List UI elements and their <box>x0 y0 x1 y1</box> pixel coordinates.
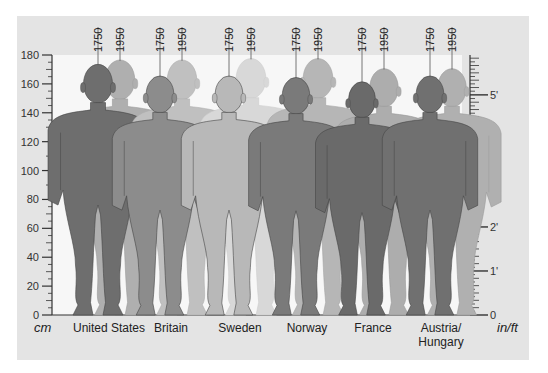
right-tick-label: 0 <box>490 309 496 321</box>
year-label: 1750 <box>356 28 368 52</box>
left-tick-label: 120 <box>21 136 39 148</box>
left-tick-label: 140 <box>21 107 39 119</box>
left-axis-unit: cm <box>34 320 51 335</box>
year-label: 1950 <box>312 28 324 52</box>
year-label: 1950 <box>176 28 188 52</box>
year-label: 1750 <box>154 28 166 52</box>
left-tick-label: 20 <box>27 280 39 292</box>
right-axis-unit: in/ft <box>497 320 518 335</box>
right-tick-label: 5' <box>490 89 498 101</box>
year-label: 1950 <box>245 28 257 52</box>
height-chart: 02040608010012014016018001'2'3'4'5'17501… <box>0 0 548 373</box>
year-label: 1750 <box>223 28 235 52</box>
left-tick-label: 80 <box>27 193 39 205</box>
country-label-line1: Austria/ <box>391 321 491 335</box>
left-tick-label: 100 <box>21 165 39 177</box>
year-label: 1750 <box>290 28 302 52</box>
left-tick-label: 180 <box>21 49 39 61</box>
country-label: Austria/Hungary <box>391 321 491 349</box>
left-tick-label: 40 <box>27 251 39 263</box>
year-label: 1950 <box>378 28 390 52</box>
year-label: 1750 <box>92 28 104 52</box>
year-label: 1950 <box>446 28 458 52</box>
country-label-line2: Hungary <box>391 335 491 349</box>
left-tick-label: 160 <box>21 78 39 90</box>
year-label: 1950 <box>114 28 126 52</box>
right-tick-label: 2' <box>490 221 498 233</box>
right-tick-label: 1' <box>490 265 498 277</box>
year-label: 1750 <box>424 28 436 52</box>
left-tick-label: 60 <box>27 222 39 234</box>
